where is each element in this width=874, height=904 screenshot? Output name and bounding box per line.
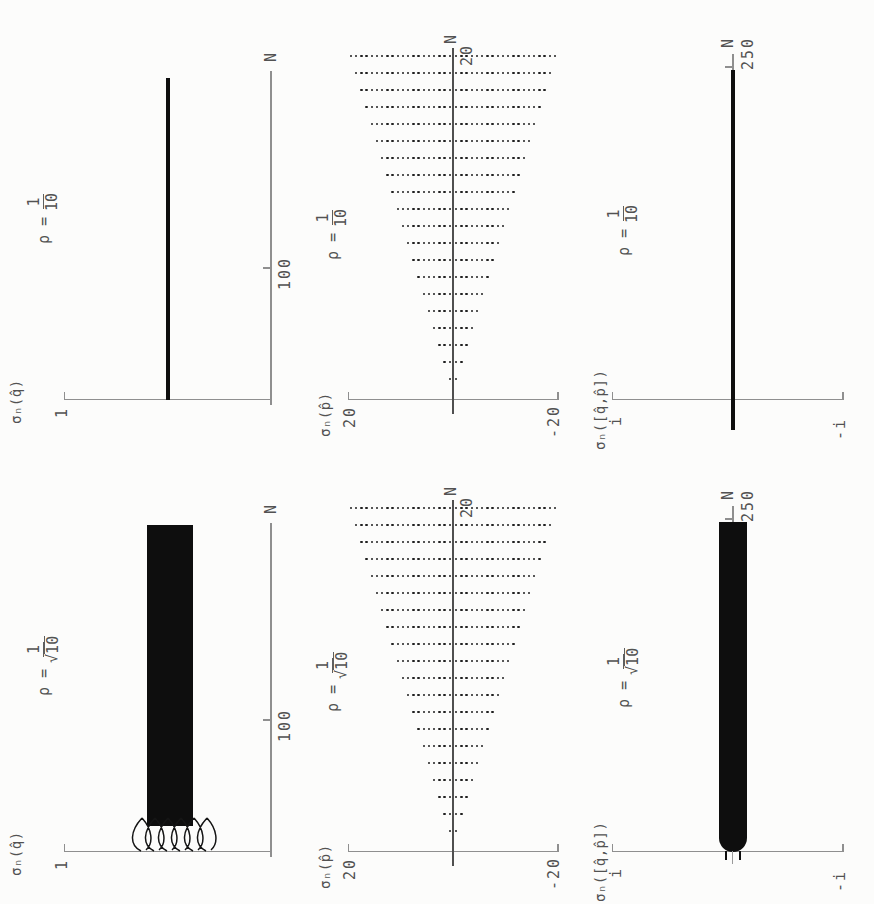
data-point xyxy=(497,694,499,696)
data-point xyxy=(433,660,435,662)
data-point xyxy=(443,174,445,176)
data-point xyxy=(407,524,409,526)
data-point xyxy=(465,140,467,142)
data-point xyxy=(460,72,462,74)
data-point xyxy=(497,89,499,91)
data-point xyxy=(428,140,430,142)
data-point xyxy=(471,157,473,159)
data-point xyxy=(397,626,399,628)
data-point xyxy=(471,276,473,278)
data-point xyxy=(449,745,451,747)
data-point xyxy=(455,711,457,713)
data-point xyxy=(491,208,493,210)
data-point xyxy=(491,259,493,261)
data-point xyxy=(407,89,409,91)
data-point xyxy=(417,191,419,193)
data-point xyxy=(465,157,467,159)
data-point xyxy=(443,558,445,560)
panel-sigma-comm-rho-1-sqrt10: σₙ([q̂,p̂]) i -i 250 N ρ = 1 √10 xyxy=(582,452,874,904)
fraction-denominator: √10 xyxy=(333,651,351,680)
data-point xyxy=(449,174,451,176)
data-point xyxy=(512,191,514,193)
data-point xyxy=(476,72,478,74)
data-point xyxy=(497,660,499,662)
y-tick-label-top: 20 xyxy=(341,406,359,428)
data-point xyxy=(391,55,393,57)
data-point xyxy=(528,89,530,91)
data-point xyxy=(476,55,478,57)
data-point xyxy=(417,541,419,543)
data-point xyxy=(502,609,504,611)
data-point xyxy=(449,609,451,611)
data-point xyxy=(491,89,493,91)
sqrt-sign: √ xyxy=(624,666,641,675)
x-axis-title: N xyxy=(442,487,460,496)
y-axis-label: σₙ(q̂) xyxy=(8,831,24,876)
data-point xyxy=(491,711,493,713)
data-point xyxy=(449,677,451,679)
data-point xyxy=(543,524,545,526)
data-point xyxy=(538,55,540,57)
data-point xyxy=(381,157,383,159)
data-point xyxy=(449,711,451,713)
rho-equals: ρ = xyxy=(35,217,53,244)
data-point xyxy=(412,208,414,210)
data-point xyxy=(507,89,509,91)
data-point xyxy=(443,762,445,764)
data-point xyxy=(417,157,419,159)
y-axis-label: σₙ([q̂,p̂]) xyxy=(592,370,608,450)
data-point xyxy=(386,106,388,108)
data-point xyxy=(386,72,388,74)
data-point xyxy=(455,779,457,781)
data-point xyxy=(507,72,509,74)
data-point xyxy=(497,123,499,125)
data-point xyxy=(460,626,462,628)
plot-sigma-comm-rho-1-sqrt10: σₙ([q̂,p̂]) i -i 250 N ρ = 1 √10 xyxy=(582,452,873,904)
y-tick-label: 1 xyxy=(53,407,71,418)
data-point xyxy=(481,55,483,57)
data-point xyxy=(476,140,478,142)
data-point xyxy=(417,89,419,91)
data-point xyxy=(528,558,530,560)
data-point xyxy=(438,507,440,509)
data-point xyxy=(443,609,445,611)
data-point xyxy=(423,643,425,645)
data-point xyxy=(512,89,514,91)
data-point xyxy=(376,575,378,577)
data-point xyxy=(407,507,409,509)
data-point xyxy=(465,507,467,509)
data-point xyxy=(491,575,493,577)
data-point xyxy=(465,575,467,577)
data-point xyxy=(423,745,425,747)
data-point xyxy=(528,140,530,142)
data-point xyxy=(423,541,425,543)
data-point xyxy=(412,140,414,142)
data-point xyxy=(497,191,499,193)
data-point xyxy=(428,276,430,278)
data-point xyxy=(455,174,457,176)
data-point xyxy=(502,55,504,57)
y-tick-label: 1 xyxy=(53,859,71,870)
data-point xyxy=(476,310,478,312)
data-point xyxy=(497,174,499,176)
data-point xyxy=(397,174,399,176)
data-point xyxy=(443,140,445,142)
data-point xyxy=(428,72,430,74)
data-point xyxy=(455,830,457,832)
data-point xyxy=(417,558,419,560)
data-point xyxy=(449,361,451,363)
data-point xyxy=(491,660,493,662)
data-point xyxy=(423,728,425,730)
data-point xyxy=(438,157,440,159)
y-tick-label-top: i xyxy=(607,415,625,426)
data-point xyxy=(507,643,509,645)
data-point xyxy=(417,276,419,278)
fraction: 1 √10 xyxy=(26,635,63,664)
data-point xyxy=(402,55,404,57)
data-point xyxy=(460,694,462,696)
data-point xyxy=(502,558,504,560)
data-point xyxy=(433,259,435,261)
data-point xyxy=(433,123,435,125)
data-point xyxy=(412,524,414,526)
data-point xyxy=(443,592,445,594)
